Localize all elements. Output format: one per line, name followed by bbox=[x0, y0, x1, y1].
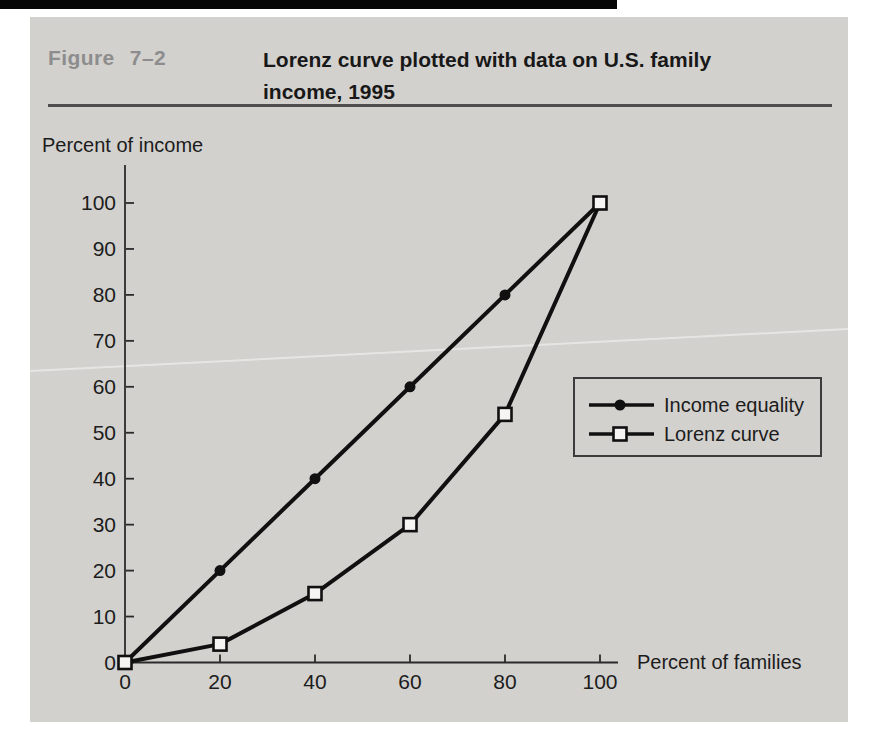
y-tick-label: 90 bbox=[93, 237, 116, 260]
data-point-open-square bbox=[404, 518, 417, 531]
x-tick-label: 80 bbox=[493, 670, 516, 693]
scan-crease-line bbox=[30, 329, 848, 371]
y-tick-label: 50 bbox=[93, 421, 116, 444]
y-tick-label: 100 bbox=[81, 191, 116, 214]
chart-axes: 0102030405060708090100020406080100 bbox=[81, 165, 618, 693]
data-point-filled-circle bbox=[215, 565, 226, 576]
y-tick-label: 70 bbox=[93, 329, 116, 352]
filled-circle-marker-icon bbox=[615, 400, 626, 411]
legend-label-lorenz-curve: Lorenz curve bbox=[664, 423, 780, 445]
x-tick-label: 60 bbox=[398, 670, 421, 693]
figure-page: Figure 7–2 Lorenz curve plotted with dat… bbox=[0, 0, 873, 746]
y-tick-label: 80 bbox=[93, 283, 116, 306]
y-tick-label: 60 bbox=[93, 375, 116, 398]
x-tick-label: 20 bbox=[208, 670, 231, 693]
data-point-open-square bbox=[499, 408, 512, 421]
series-line-0 bbox=[125, 203, 600, 663]
data-point-filled-circle bbox=[405, 381, 416, 392]
data-point-open-square bbox=[594, 197, 607, 210]
y-tick-label: 40 bbox=[93, 467, 116, 490]
x-axis-title: Percent of families bbox=[637, 651, 802, 673]
y-tick-label: 30 bbox=[93, 513, 116, 536]
y-axis-title: Percent of income bbox=[42, 134, 203, 156]
data-point-open-square bbox=[214, 638, 227, 651]
open-square-marker-icon bbox=[614, 428, 627, 441]
data-point-open-square bbox=[309, 587, 322, 600]
data-point-open-square bbox=[119, 656, 132, 669]
x-tick-label: 0 bbox=[119, 670, 131, 693]
chart-series bbox=[119, 197, 607, 670]
data-point-filled-circle bbox=[310, 473, 321, 484]
data-point-filled-circle bbox=[500, 289, 511, 300]
legend-label-income-equality: Income equality bbox=[664, 394, 804, 416]
x-tick-label: 100 bbox=[582, 670, 617, 693]
lorenz-curve-chart: Percent of income Percent of families 01… bbox=[0, 0, 873, 746]
chart-legend: Income equality Lorenz curve bbox=[574, 378, 821, 456]
y-tick-label: 20 bbox=[93, 559, 116, 582]
y-tick-label: 10 bbox=[93, 605, 116, 628]
y-tick-label: 0 bbox=[104, 651, 116, 674]
x-tick-label: 40 bbox=[303, 670, 326, 693]
